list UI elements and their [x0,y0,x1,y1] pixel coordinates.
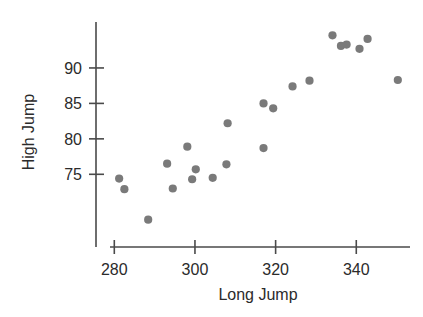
data-point [163,160,171,168]
data-point [188,175,196,183]
scatter-plot-figure: 75808590 280300320340 Long Jump High Jum… [0,0,423,317]
data-point [222,160,230,168]
x-tick-label: 280 [101,261,128,278]
data-point [328,31,336,39]
data-point [363,35,371,43]
y-tick-label: 85 [64,95,82,112]
y-tick-label: 75 [64,166,82,183]
y-axis-title: High Jump [20,94,37,171]
data-point [169,184,177,192]
data-point [288,82,296,90]
x-tick-label: 300 [182,261,209,278]
data-point [355,45,363,53]
y-tick-label: 80 [64,131,82,148]
data-point [394,76,402,84]
data-point [120,185,128,193]
data-point [192,165,200,173]
plot-canvas: 75808590 280300320340 Long Jump High Jum… [0,0,423,317]
y-axis-tick-labels: 75808590 [64,60,82,183]
data-point [269,104,277,112]
x-axis-title: Long Jump [218,286,297,303]
data-point [259,99,267,107]
data-point [183,143,191,151]
data-point [305,77,313,85]
data-points-layer [115,31,402,224]
data-point [259,144,267,152]
data-point [343,40,351,48]
x-tick-label: 320 [262,261,289,278]
y-tick-label: 90 [64,60,82,77]
data-point [144,216,152,224]
data-point [224,119,232,127]
data-point [209,174,217,182]
x-tick-label: 340 [343,261,370,278]
data-point [115,174,123,182]
x-axis-tick-labels: 280300320340 [101,261,370,278]
